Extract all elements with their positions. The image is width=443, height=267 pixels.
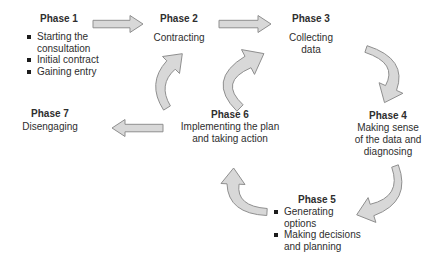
list-item: Gaining entry (27, 66, 115, 78)
phase3-block: Phase 3 Collecting data (271, 13, 351, 56)
bullet-square-icon (274, 233, 278, 237)
phase7-block: Phase 7 Disengaging (8, 108, 92, 133)
bullet-text: Gaining entry (37, 66, 96, 78)
arrow-phase2-to-phase3 (219, 16, 271, 33)
bullet-square-icon (27, 70, 31, 74)
phase5-bullets: Generating options Making decisions and … (274, 206, 370, 253)
bullet-square-icon (27, 35, 31, 39)
arrow-phase1-to-phase2 (93, 16, 143, 33)
phase7-title: Phase 7 (8, 108, 92, 120)
phase2-block: Phase 2 Contracting (139, 13, 219, 44)
bullet-text: Starting the consultation (37, 31, 90, 54)
phase4-subtitle: Making sense of the data and diagnosing (343, 122, 433, 158)
list-item: Initial contract (27, 54, 115, 66)
phase6-title: Phase 6 (165, 109, 295, 121)
phase1-title: Phase 1 (19, 13, 99, 25)
phase1-block: Phase 1 (19, 13, 99, 25)
bullet-text: Initial contract (37, 54, 99, 66)
arrow-phase5-to-phase6 (221, 168, 267, 216)
list-item: Generating options (274, 206, 370, 229)
phase4-title: Phase 4 (343, 110, 433, 122)
arrow-phase6-to-phase7 (112, 120, 163, 137)
bullet-square-icon (27, 58, 31, 62)
phase3-title: Phase 3 (271, 13, 351, 25)
bullet-square-icon (274, 210, 278, 214)
bullet-text: Generating options (284, 206, 333, 229)
phase1-bullets: Starting the consultation Initial contra… (27, 31, 115, 78)
phase7-subtitle: Disengaging (8, 121, 92, 133)
phase2-subtitle: Contracting (139, 32, 219, 44)
phase3-subtitle: Collecting data (271, 32, 351, 56)
arrow-phase3-to-phase4 (365, 46, 403, 103)
bullet-text: Making decisions and planning (284, 229, 361, 252)
phase2-title: Phase 2 (139, 13, 219, 25)
arrow-phase6-to-phase2 (156, 54, 183, 110)
list-item: Making decisions and planning (274, 229, 370, 252)
phase5-title: Phase 5 (275, 194, 359, 206)
arrow-phase6-to-phase3 (223, 50, 264, 112)
list-item: Starting the consultation (27, 31, 115, 54)
consulting-cycle-diagram: Phase 1 Starting the consultation Initia… (0, 0, 443, 267)
phase6-subtitle: Implementing the plan and taking action (165, 121, 295, 145)
phase5-block: Phase 5 (275, 194, 359, 206)
phase4-block: Phase 4 Making sense of the data and dia… (343, 110, 433, 158)
phase6-block: Phase 6 Implementing the plan and taking… (165, 109, 295, 145)
